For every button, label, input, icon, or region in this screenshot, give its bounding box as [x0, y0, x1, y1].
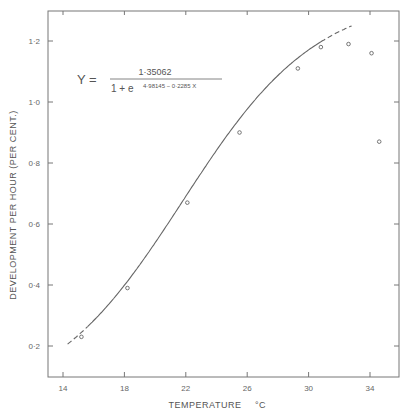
logistic-fit-curve	[68, 26, 352, 344]
x-axis-title: TEMPERATURE	[169, 400, 242, 410]
data-point	[370, 51, 374, 55]
equation-numerator: 1·35062	[138, 67, 171, 77]
data-point	[80, 335, 84, 339]
equation-denominator: 1 + e	[111, 83, 134, 94]
chart: 141822263034 0·20·40·60·81·01·2 Y = 1·35…	[0, 0, 408, 415]
equation-exponent: 4·98145 − 0·2285 X	[143, 83, 196, 89]
y-tick-label: 1·0	[28, 98, 40, 107]
x-tick-label: 34	[366, 384, 375, 393]
fit-curve-dashed	[68, 327, 88, 345]
plot-frame	[48, 11, 399, 377]
x-tick-label: 22	[181, 384, 190, 393]
y-tick-label: 0·8	[28, 159, 40, 168]
x-axis-unit: °C	[255, 400, 266, 410]
data-point	[377, 140, 381, 144]
y-tick-label: 0·4	[28, 281, 40, 290]
data-point	[238, 131, 242, 135]
x-tick-label: 30	[304, 384, 313, 393]
data-point	[319, 45, 323, 49]
x-tick-label: 14	[59, 384, 68, 393]
y-tick-label: 0·2	[28, 342, 40, 351]
equation-annotation: Y = 1·35062 1 + e 4·98145 − 0·2285 X	[77, 67, 222, 94]
y-axis-title: DEVELOPMENT PER HOUR (PER CENT.)	[8, 110, 18, 299]
data-point	[347, 42, 351, 46]
data-point	[296, 67, 300, 71]
data-point	[186, 201, 190, 205]
x-tick-label: 18	[120, 384, 129, 393]
x-axis-ticks: 141822263034	[59, 11, 375, 393]
equation-lhs: Y =	[77, 72, 97, 87]
y-tick-label: 0·6	[28, 220, 40, 229]
data-point	[126, 286, 130, 290]
fit-curve-dashed	[321, 26, 352, 42]
y-tick-label: 1·2	[28, 37, 40, 46]
x-tick-label: 26	[243, 384, 252, 393]
